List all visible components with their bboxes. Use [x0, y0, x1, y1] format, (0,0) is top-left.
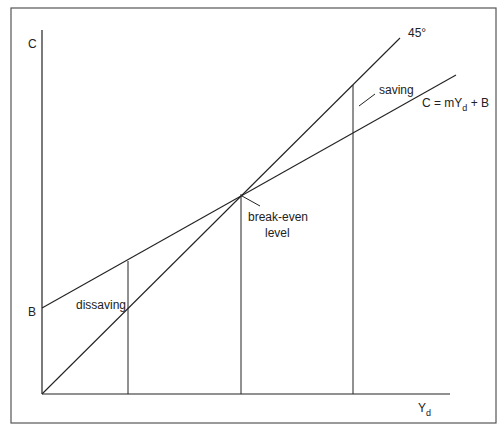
- x-axis-label: Yd: [418, 401, 431, 418]
- intercept-label: B: [28, 305, 36, 319]
- forty-five-label: 45°: [408, 26, 426, 40]
- consumption-equation-label: C = mYd + B: [422, 96, 489, 113]
- consumption-diagram: C Yd B 45° C = mYd + B saving dissaving …: [0, 0, 504, 437]
- y-axis-label: C: [28, 37, 37, 51]
- dissaving-label: dissaving: [76, 298, 126, 312]
- break-even-pointer: [242, 196, 260, 206]
- saving-label: saving: [379, 83, 414, 97]
- consumption-line: [42, 75, 456, 308]
- break-even-level-label: level: [265, 226, 290, 240]
- break-even-label: break-even: [248, 210, 308, 224]
- forty-five-degree-line: [42, 38, 400, 394]
- saving-pointer: [359, 94, 375, 106]
